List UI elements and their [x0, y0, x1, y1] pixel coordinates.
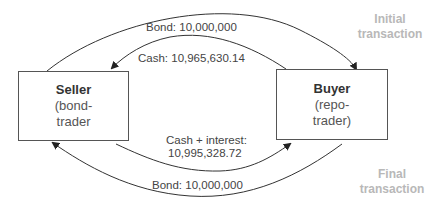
final-label-line1: Final [352, 167, 432, 182]
final-cash-label-line2: 10,995,328.72 [168, 146, 242, 160]
initial-label-line2: transaction [350, 27, 430, 42]
buyer-box: Buyer (repo- trader) [276, 69, 388, 140]
buyer-title: Buyer [314, 81, 351, 97]
final-transaction-label: Final transaction [352, 167, 432, 197]
buyer-role-line2: trader) [313, 113, 351, 129]
initial-bond-label: Bond: 10,000,000 [146, 20, 237, 34]
initial-transaction-label: Initial transaction [350, 12, 430, 42]
buyer-role-line1: (repo- [315, 97, 350, 113]
seller-role-line2: trader [57, 114, 91, 130]
seller-role-line1: (bond- [55, 98, 93, 114]
final-cash-label-line1: Cash + interest: [166, 133, 247, 147]
seller-title: Seller [56, 82, 91, 98]
initial-label-line1: Initial [350, 12, 430, 27]
initial-cash-label: Cash: 10,965,630.14 [138, 51, 245, 65]
final-label-line2: transaction [352, 182, 432, 197]
seller-box: Seller (bond- trader [18, 71, 129, 141]
final-bond-label: Bond: 10,000,000 [152, 178, 243, 192]
